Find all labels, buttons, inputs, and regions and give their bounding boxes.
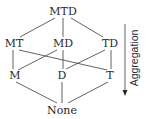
edge-mtd-mt: [20, 18, 55, 37]
edge-td-d: [66, 50, 105, 69]
edge-mtd-td: [71, 18, 103, 37]
node-m: M: [9, 69, 20, 82]
aggregation-label: Aggregation: [128, 30, 140, 87]
edge-md-m: [18, 50, 57, 70]
arrow-down-icon: [123, 90, 128, 96]
aggregation-lattice-diagram: MTD MT MD TD M D T None Aggregation: [0, 0, 148, 119]
edges: [13, 18, 111, 103]
nodes: MTD MT MD TD M D T None: [5, 5, 119, 117]
node-mtd: MTD: [49, 5, 77, 18]
node-td: TD: [102, 37, 118, 50]
node-mt: MT: [5, 37, 24, 50]
node-d: D: [58, 69, 67, 82]
edge-m-none: [16, 82, 57, 103]
node-none: None: [47, 104, 77, 117]
edge-t-none: [68, 82, 108, 103]
aggregation-arrow: [123, 24, 128, 96]
node-md: MD: [53, 37, 73, 50]
node-t: T: [106, 69, 114, 82]
